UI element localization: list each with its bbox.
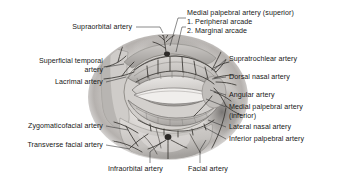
label-medial-palpebral-inferior-line1: Medial palpebral artery bbox=[229, 103, 338, 112]
label-lacrimal-artery: Lacrimal artery bbox=[28, 78, 103, 87]
label-facial-artery: Facial artery bbox=[188, 165, 254, 174]
label-superficial-temporal-artery: Superficial temporal artery bbox=[8, 57, 103, 75]
label-zygomaticofacial-artery: Zygomaticofacial artery bbox=[5, 122, 103, 131]
label-dorsal-nasal-artery: Dorsal nasal artery bbox=[229, 73, 337, 82]
label-transverse-facial-artery: Transverse facial artery bbox=[5, 141, 103, 150]
label-medial-palpebral-inferior-line2: (inferior) bbox=[229, 112, 338, 121]
label-marginal-arcade: 2. Marginal arcade bbox=[187, 27, 335, 36]
label-angular-artery: Angular artery bbox=[229, 91, 337, 100]
label-medial-palpebral-artery-superior: Medial palpebral artery (superior) 1. Pe… bbox=[187, 9, 335, 36]
label-supraorbital-artery: Supraorbital artery bbox=[28, 23, 132, 32]
leader-supraorbital bbox=[136, 27, 163, 33]
label-medial-palpebral-superior-line1: Medial palpebral artery (superior) bbox=[187, 9, 335, 18]
label-superficial-temporal-line2: artery bbox=[8, 66, 103, 75]
label-medial-palpebral-artery-inferior: Medial palpebral artery (inferior) bbox=[229, 103, 338, 121]
label-superficial-temporal-line1: Superficial temporal bbox=[8, 57, 103, 66]
label-inferior-palpebral-artery: Inferior palpebral artery bbox=[229, 135, 338, 144]
illustration-body bbox=[86, 27, 248, 160]
label-lateral-nasal-artery: Lateral nasal artery bbox=[229, 123, 337, 132]
label-supratrochlear-artery: Supratrochlear artery bbox=[229, 55, 337, 64]
supraorbital-notch bbox=[164, 52, 170, 57]
label-infraorbital-artery: Infraorbital artery bbox=[108, 165, 190, 174]
label-peripheral-arcade: 1. Peripheral arcade bbox=[187, 18, 335, 27]
infraorbital-foramen bbox=[165, 134, 172, 140]
